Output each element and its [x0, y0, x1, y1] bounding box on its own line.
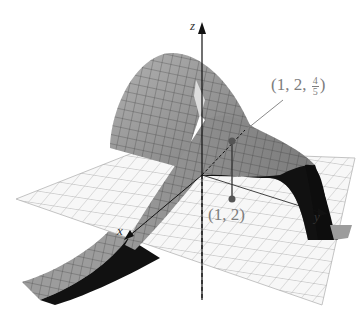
fraction: 45: [312, 76, 319, 97]
surface-diagram: z x y (1, 2, 45) (1, 2): [0, 0, 364, 320]
point-on-plane-marker: [229, 196, 236, 203]
surface-plot-svg: [0, 0, 364, 320]
x-axis-label: x: [117, 223, 123, 239]
point-on-plane-label: (1, 2): [208, 205, 245, 225]
z-axis-label: z: [190, 18, 195, 34]
y-axis-label: y: [314, 209, 320, 225]
point-on-surface-marker: [229, 138, 236, 145]
point-on-surface-label: (1, 2, 45): [271, 75, 325, 97]
